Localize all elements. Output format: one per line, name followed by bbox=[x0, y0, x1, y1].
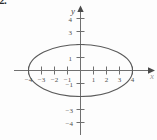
y-axis-label: y bbox=[70, 6, 75, 16]
x-tick-label-1: 1 bbox=[92, 76, 96, 84]
y-axis-arrowhead bbox=[77, 6, 83, 13]
x-tick-label--3: −3 bbox=[38, 76, 46, 84]
x-tick-label--2: −2 bbox=[51, 76, 59, 84]
x-axis-tick-labels: −4 −3 −2 −1 1 2 3 4 bbox=[25, 76, 135, 84]
x-axis-label: x bbox=[149, 71, 154, 81]
x-tick-label--4: −4 bbox=[25, 76, 33, 84]
x-axis-group bbox=[14, 67, 155, 73]
y-tick-label-1: 1 bbox=[69, 55, 73, 63]
ellipse-figure: 2. bbox=[0, 0, 157, 140]
y-tick-label-3: 3 bbox=[69, 29, 73, 37]
y-tick-label--3: −3 bbox=[66, 107, 74, 115]
y-axis-tick-labels: 4 3 1 −1 −3 −4 bbox=[66, 16, 74, 128]
x-tick-label-4: 4 bbox=[131, 76, 135, 84]
x-tick-label-2: 2 bbox=[105, 76, 109, 84]
coordinate-plane: −4 −3 −2 −1 1 2 3 4 4 3 1 −1 −3 −4 y x bbox=[0, 0, 157, 140]
x-tick-label-3: 3 bbox=[118, 76, 122, 84]
y-tick-label--4: −4 bbox=[66, 120, 74, 128]
y-tick-label--1: −1 bbox=[66, 81, 74, 89]
y-tick-label-4: 4 bbox=[69, 16, 73, 24]
